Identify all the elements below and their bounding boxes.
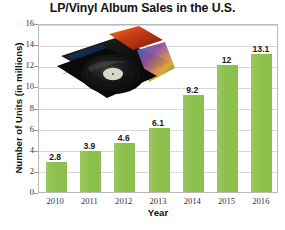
bar[interactable] [217,65,238,192]
bar-value-label: 2.8 [39,152,71,162]
bar[interactable] [251,54,272,192]
gridline [39,46,277,47]
bar-value-label: 4.6 [108,133,140,143]
y-tick-mark [34,45,38,46]
x-tick-label: 2015 [210,196,244,206]
x-tick-label: 2012 [107,196,141,206]
y-tick-mark [34,109,38,110]
y-tick-mark [34,87,38,88]
bar-value-label: 12 [211,55,243,65]
y-tick-mark [34,172,38,173]
bar[interactable] [114,143,135,192]
source-note [5,220,155,227]
x-tick-label: 2010 [38,196,72,206]
plot-area [38,24,278,193]
bar[interactable] [46,162,67,192]
y-tick-label: 14 [12,40,34,49]
x-tick-label: 2016 [244,196,278,206]
y-tick-label: 12 [12,61,34,70]
y-tick-mark [34,24,38,25]
bar[interactable] [183,95,204,192]
gridline [39,109,277,110]
x-tick-label: 2011 [72,196,106,206]
y-tick-label: 8 [12,104,34,113]
y-tick-label: 10 [12,82,34,91]
x-axis-title: Year [38,207,278,218]
gridline [39,67,277,68]
y-tick-label: 0 [12,188,34,197]
gridline [39,25,277,26]
bar-chart-figure: LP/Vinyl Album Sales in the U.S. Number … [0,0,285,230]
x-tick-label: 2013 [141,196,175,206]
y-tick-label: 16 [12,19,34,28]
y-tick-label: 2 [12,167,34,176]
bar[interactable] [80,151,101,192]
gridline [39,88,277,89]
bar-value-label: 3.9 [73,141,105,151]
bar-value-label: 13.1 [245,44,277,54]
y-tick-label: 6 [12,125,34,134]
x-tick-label: 2014 [175,196,209,206]
y-tick-mark [34,193,38,194]
y-tick-mark [34,151,38,152]
bar-value-label: 6.1 [142,118,174,128]
y-tick-label: 4 [12,146,34,155]
bar-value-label: 9.2 [176,85,208,95]
y-tick-mark [34,66,38,67]
bar[interactable] [149,128,170,192]
y-tick-mark [34,130,38,131]
chart-title: LP/Vinyl Album Sales in the U.S. [0,1,285,15]
